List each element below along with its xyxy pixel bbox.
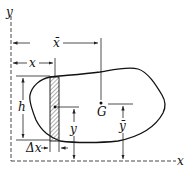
x-axis: x: [11, 154, 184, 168]
hatched-strip: [50, 77, 59, 141]
h-label: h: [18, 100, 26, 114]
centroid-label: G: [97, 105, 107, 119]
delta-x-dimension: Δx: [25, 141, 68, 155]
delta-x-label: Δx: [25, 141, 42, 155]
strip-centroid-dot: [54, 106, 57, 109]
h-dimension: h: [16, 76, 50, 140]
x-strip-dimension: x: [13, 56, 55, 77]
y-bar-dimension: G ȳ: [97, 102, 133, 160]
y-axis: y: [5, 5, 13, 161]
x-strip-label: x: [29, 56, 36, 70]
y-axis-label: y: [5, 5, 13, 19]
y-bar-label: ȳ: [118, 119, 126, 133]
x-axis-label: x: [177, 154, 184, 168]
x-bar-label: x̄: [53, 36, 60, 50]
centroid-diagram: y x x̄ x h y G: [0, 0, 187, 174]
y-strip-label: y: [69, 122, 77, 136]
